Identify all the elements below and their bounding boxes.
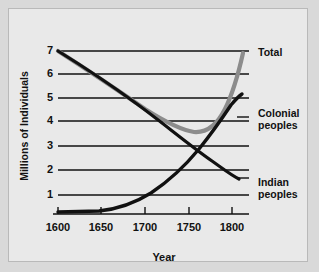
series-label-indian: Indian peoples <box>258 176 298 200</box>
y-tick-label-5: 5 <box>39 91 53 103</box>
x-tick-label-1750: 1750 <box>171 221 207 233</box>
x-axis-title: Year <box>119 251 209 263</box>
series-line-total <box>58 51 243 132</box>
y-axis-title: Millions of Individuals <box>18 0 30 61</box>
label-leader-lines <box>237 117 249 178</box>
y-tick-label-3: 3 <box>39 139 53 151</box>
x-tick-label-1650: 1650 <box>83 221 119 233</box>
y-tick-label-4: 4 <box>39 114 53 126</box>
series-label-indian-line2: peoples <box>258 188 298 200</box>
chart-screenshot: 7 6 5 4 3 2 1 1600 1650 1700 1750 1800 M… <box>0 0 319 272</box>
series-label-colonial-line1: Colonial <box>258 107 299 119</box>
x-tick-label-1600: 1600 <box>40 221 76 233</box>
x-tick-label-1700: 1700 <box>127 221 163 233</box>
y-tick-label-1: 1 <box>39 188 53 200</box>
y-tick-label-7: 7 <box>39 44 53 56</box>
y-tick-label-2: 2 <box>39 163 53 175</box>
series-label-indian-line1: Indian <box>258 176 298 188</box>
series-label-total: Total <box>258 46 282 58</box>
series-label-total-line1: Total <box>258 46 282 58</box>
y-tick-label-6: 6 <box>39 67 53 79</box>
chart-frame: 7 6 5 4 3 2 1 1600 1650 1700 1750 1800 M… <box>8 8 308 262</box>
y-axis-title-text: Millions of Individuals <box>18 61 30 191</box>
series-label-colonial-line2: peoples <box>258 119 299 131</box>
x-tick-label-1800: 1800 <box>214 221 250 233</box>
series-label-colonial: Colonial peoples <box>258 107 299 131</box>
